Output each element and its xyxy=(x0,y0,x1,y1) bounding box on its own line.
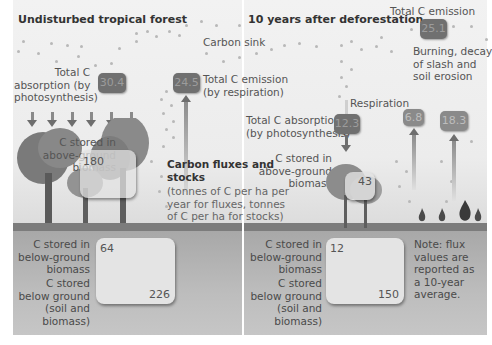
note-line: values are xyxy=(414,251,474,264)
flame-icon xyxy=(438,208,446,222)
label-line: C stored in xyxy=(40,136,116,149)
label-line: biomass xyxy=(246,177,332,190)
label-line: C stored in xyxy=(246,152,332,165)
right-absorption-arrow-tail xyxy=(345,100,348,114)
flame-icon xyxy=(458,200,472,222)
left-above-ground-box: 180 xyxy=(80,150,136,198)
right-below-biomass-value: 12 xyxy=(330,242,344,255)
label-line: Total C absorption xyxy=(246,114,332,127)
right-below-biomass-label: C stored in below-ground biomass xyxy=(246,238,322,276)
label-line: (by respiration) xyxy=(203,86,288,99)
label-line: biomass) xyxy=(246,315,322,328)
left-emission-arrow-head xyxy=(181,95,191,102)
right-total-emission-label: Total C emission xyxy=(390,5,475,18)
respiration-value: 6.8 xyxy=(403,109,424,126)
respiration-arrow xyxy=(412,135,416,190)
legend-line: year for fluxes, tonnes xyxy=(167,198,289,211)
left-below-total-label: C stored below ground (soil and biomass) xyxy=(14,277,90,327)
left-emission-label: Total C emission (by respiration) xyxy=(203,73,288,98)
left-absorption-label: Total C absorption (by photosynthesis) xyxy=(14,66,90,104)
label-line: absorption (by xyxy=(14,79,90,92)
flame-icon xyxy=(418,208,426,222)
note-line: Note: flux xyxy=(414,238,474,251)
left-below-biomass-value: 64 xyxy=(100,242,114,255)
label-line: biomass xyxy=(246,263,322,276)
label-line: photosynthesis) xyxy=(14,91,90,104)
label-line: Burning, decay xyxy=(413,45,492,58)
label-line: Total C xyxy=(14,66,90,79)
burning-arrow-head xyxy=(449,134,459,141)
right-below-ground-box: 12 150 xyxy=(326,238,404,304)
label-line: above-ground xyxy=(246,165,332,178)
label-line: Total C emission xyxy=(203,73,288,86)
note-line: average. xyxy=(414,288,474,301)
label-line: (soil and xyxy=(246,302,322,315)
respiration-arrow-head xyxy=(409,128,419,135)
note-line: reported as xyxy=(414,263,474,276)
respiration-label: Respiration xyxy=(350,97,409,110)
burning-label: Burning, decay of slash and soil erosion xyxy=(413,45,492,83)
flux-note: Note: flux values are reported as a 10-y… xyxy=(414,238,474,301)
left-absorption-value: 30.4 xyxy=(98,73,126,93)
right-below-total-value: 150 xyxy=(378,288,399,301)
label-line: below-ground xyxy=(246,251,322,264)
right-above-ground-value: 43 xyxy=(358,175,372,188)
note-line: a 10-year xyxy=(414,276,474,289)
left-below-ground-box: 64 226 xyxy=(96,238,175,304)
right-total-emission-value: 25.1 xyxy=(420,19,447,39)
left-panel-title: Undisturbed tropical forest xyxy=(18,13,187,26)
burning-value: 18.3 xyxy=(440,111,468,131)
right-absorption-arrow xyxy=(345,135,348,145)
label-line: below ground xyxy=(14,290,90,303)
right-above-ground-box: 43 xyxy=(345,172,375,200)
label-line: (soil and xyxy=(14,302,90,315)
left-below-total-value: 226 xyxy=(149,288,170,301)
label-line: of slash and xyxy=(413,58,492,71)
legend-body: (tonnes of C per ha per year for fluxes,… xyxy=(167,185,289,223)
label-line: C stored xyxy=(246,277,322,290)
left-below-biomass-label: C stored in below-ground biomass xyxy=(14,238,90,276)
flame-icon xyxy=(474,208,482,222)
right-absorption-value: 12.3 xyxy=(334,114,360,134)
burning-arrow xyxy=(452,141,456,201)
left-above-ground-value: 180 xyxy=(83,155,104,168)
label-line: below-ground xyxy=(14,251,90,264)
right-above-ground-label: C stored in above-ground biomass xyxy=(246,152,332,190)
right-absorption-label: Total C absorption (by photosynthesis) xyxy=(246,114,332,139)
label-line: C stored in xyxy=(14,238,90,251)
legend-line: of C per ha for stocks) xyxy=(167,210,289,223)
label-line: biomass xyxy=(14,263,90,276)
right-absorption-arrow-head xyxy=(341,145,351,152)
label-line: C stored xyxy=(14,277,90,290)
label-line: biomass) xyxy=(14,315,90,328)
right-below-total-label: C stored below ground (soil and biomass) xyxy=(246,277,322,327)
label-line: below ground xyxy=(246,290,322,303)
label-line: soil erosion xyxy=(413,70,492,83)
left-emission-value: 24.5 xyxy=(173,73,200,93)
carbon-sink-label: Carbon sink xyxy=(203,36,265,49)
label-line: (by photosynthesis) xyxy=(246,127,332,140)
label-line: C stored in xyxy=(246,238,322,251)
